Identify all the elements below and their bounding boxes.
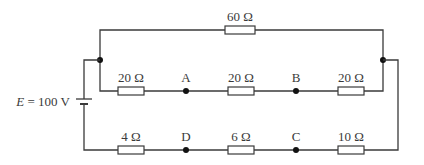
- left-outer-wire-bottom: [84, 104, 118, 150]
- top-wire-right: [255, 30, 383, 60]
- label-60-ohm: 60 Ω: [227, 9, 253, 24]
- resistor-20-ohm-2: [228, 87, 254, 95]
- node-c: [293, 147, 299, 153]
- left-outer-wire-top: [84, 60, 100, 99]
- circuit-diagram: 60 Ω 20 Ω 20 Ω 20 Ω A B E = 100 V 4 Ω 6 …: [0, 0, 424, 165]
- resistor-20-ohm-3: [338, 87, 364, 95]
- label-6-ohm: 6 Ω: [231, 129, 250, 144]
- resistor-10-ohm: [338, 146, 364, 154]
- resistor-6-ohm: [228, 146, 254, 154]
- label-20-ohm-3: 20 Ω: [338, 70, 364, 85]
- label-node-a: A: [181, 70, 191, 85]
- node-a: [183, 88, 189, 94]
- mid-wire-1: [100, 60, 118, 91]
- label-node-c: C: [292, 129, 301, 144]
- resistor-4-ohm: [118, 146, 144, 154]
- label-20-ohm-1: 20 Ω: [118, 70, 144, 85]
- resistor-60-ohm: [225, 26, 255, 34]
- label-20-ohm-2: 20 Ω: [228, 70, 254, 85]
- top-wire-left: [100, 30, 225, 60]
- source-label: E = 100 V: [15, 94, 70, 109]
- resistor-20-ohm-1: [118, 87, 144, 95]
- label-node-d: D: [181, 129, 190, 144]
- label-4-ohm: 4 Ω: [121, 129, 140, 144]
- right-outer-wire: [364, 60, 398, 150]
- label-10-ohm: 10 Ω: [338, 129, 364, 144]
- label-node-b: B: [292, 70, 301, 85]
- node-d: [183, 147, 189, 153]
- node-b: [293, 88, 299, 94]
- mid-wire-4: [364, 60, 383, 91]
- circuit-svg: 60 Ω 20 Ω 20 Ω 20 Ω A B E = 100 V 4 Ω 6 …: [0, 0, 424, 165]
